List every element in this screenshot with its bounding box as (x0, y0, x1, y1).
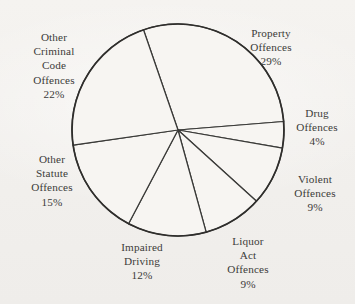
label-line-1: Impaired (100, 240, 184, 254)
pie-label-other-statute-offences: Other Statute Offences 15% (12, 152, 92, 209)
label-line-4: Offences (14, 73, 94, 87)
pie-label-liquor-act-offences: Liquor Act Offences 9% (211, 234, 285, 291)
pie-label-violent-offences: Violent Offences 9% (278, 172, 352, 215)
label-line-2: Offences (278, 186, 352, 200)
pie-label-property-offences: Property Offences 29% (228, 26, 314, 69)
label-line-3: Offences (12, 180, 92, 194)
label-percent: 15% (12, 195, 92, 209)
label-line-2: Driving (100, 254, 184, 268)
label-line-1: Liquor (211, 234, 285, 248)
pie-label-other-criminal-code-offences: Other Criminal Code Offences 22% (14, 30, 94, 101)
label-line-1: Other (14, 30, 94, 44)
label-line-2: Offences (228, 40, 314, 54)
label-line-2: Offences (281, 120, 353, 134)
label-percent: 4% (281, 134, 353, 148)
label-percent: 29% (228, 54, 314, 68)
label-percent: 9% (211, 277, 285, 291)
label-line-2: Act (211, 248, 285, 262)
label-line-2: Statute (12, 166, 92, 180)
label-line-1: Violent (278, 172, 352, 186)
label-line-3: Code (14, 58, 94, 72)
label-percent: 22% (14, 87, 94, 101)
label-line-3: Offences (211, 262, 285, 276)
label-percent: 12% (100, 268, 184, 282)
label-line-1: Drug (281, 106, 353, 120)
pie-label-impaired-driving: Impaired Driving 12% (100, 240, 184, 283)
label-line-1: Other (12, 152, 92, 166)
label-percent: 9% (278, 200, 352, 214)
label-line-1: Property (228, 26, 314, 40)
pie-chart-figure: Property Offences 29% Drug Offences 4% V… (0, 0, 355, 304)
pie-label-drug-offences: Drug Offences 4% (281, 106, 353, 149)
label-line-2: Criminal (14, 44, 94, 58)
